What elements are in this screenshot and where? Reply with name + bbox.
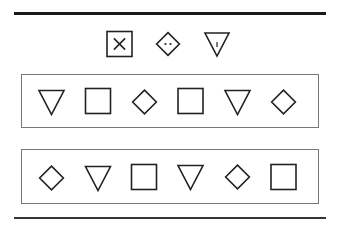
diamond-icon bbox=[40, 166, 64, 190]
diamond-icon bbox=[272, 90, 296, 114]
triangle-down-icon bbox=[225, 91, 250, 115]
square-icon bbox=[86, 89, 111, 114]
diamond-icon bbox=[133, 90, 157, 114]
row-shapes bbox=[0, 0, 341, 225]
diamond-icon bbox=[226, 165, 250, 189]
square-icon bbox=[132, 165, 157, 190]
square-icon bbox=[271, 165, 296, 190]
triangle-down-icon bbox=[39, 91, 64, 115]
triangle-down-icon bbox=[86, 167, 111, 191]
square-icon bbox=[178, 89, 203, 114]
triangle-down-icon bbox=[178, 166, 203, 190]
bottom-rule bbox=[14, 217, 326, 219]
